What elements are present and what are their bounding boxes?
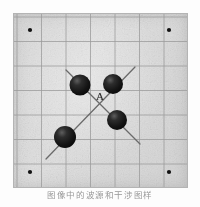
grid-plate: A xyxy=(13,13,188,188)
corner-dot-top-right xyxy=(167,28,171,32)
grid-lines-vertical xyxy=(17,13,164,188)
sphere-lower-left xyxy=(54,126,76,148)
sphere-upper-right xyxy=(103,74,123,94)
figure-caption: 图像中的波源和干涉图样 xyxy=(0,190,200,201)
sphere-lower-right xyxy=(107,110,127,130)
corner-dot-top-left xyxy=(28,28,32,32)
point-label-a: A xyxy=(96,91,104,102)
sphere-upper-left xyxy=(70,75,91,96)
figure-root: A 图像中的波源和干涉图样 xyxy=(0,0,200,207)
corner-dot-bottom-right xyxy=(167,170,171,174)
corner-dot-bottom-left xyxy=(28,170,32,174)
